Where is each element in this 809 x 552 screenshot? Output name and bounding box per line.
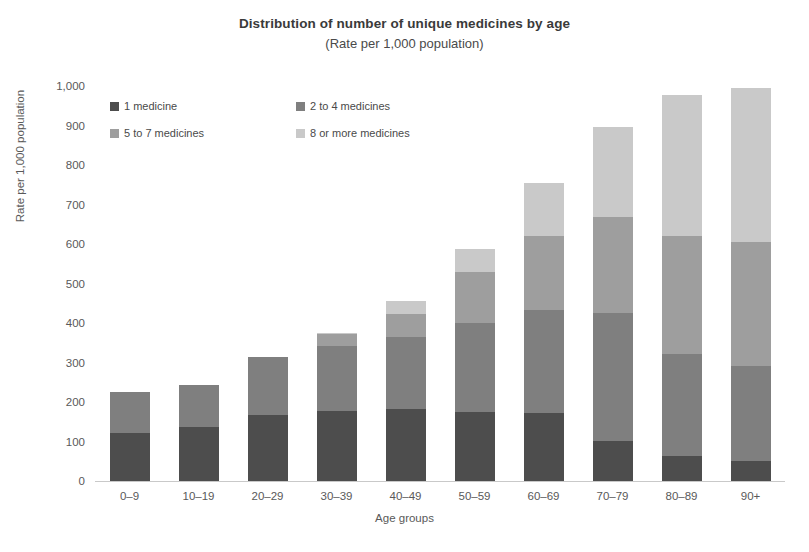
chart-title: Distribution of number of unique medicin… xyxy=(0,16,809,31)
bar-segment[interactable] xyxy=(110,392,150,433)
bar-group[interactable] xyxy=(662,86,702,481)
bar-segment[interactable] xyxy=(662,236,702,354)
bar-segment[interactable] xyxy=(593,313,633,441)
bar-segment[interactable] xyxy=(524,236,564,310)
bar-stack xyxy=(179,385,219,481)
bar-segment[interactable] xyxy=(524,183,564,236)
bar-segment[interactable] xyxy=(662,354,702,456)
bar-segment[interactable] xyxy=(731,88,771,242)
bar-segment[interactable] xyxy=(248,415,288,481)
bar-stack xyxy=(110,392,150,481)
legend-swatch-icon xyxy=(296,102,305,111)
plot-area xyxy=(95,86,785,481)
chart-subtitle: (Rate per 1,000 population) xyxy=(0,36,809,51)
bar-segment[interactable] xyxy=(179,385,219,426)
legend-swatch-icon xyxy=(110,129,119,138)
x-axis-line xyxy=(95,481,785,482)
bar-segment[interactable] xyxy=(593,441,633,481)
bar-segment[interactable] xyxy=(455,249,495,272)
bar-stack xyxy=(455,249,495,481)
y-axis-tick-label: 900 xyxy=(27,120,85,132)
bar-segment[interactable] xyxy=(317,346,357,410)
y-axis-tick-label: 700 xyxy=(27,199,85,211)
bar-segment[interactable] xyxy=(179,427,219,482)
y-axis-tick-label: 200 xyxy=(27,396,85,408)
bar-group[interactable] xyxy=(179,86,219,481)
bar-stack xyxy=(662,95,702,481)
bar-segment[interactable] xyxy=(731,461,771,481)
y-axis-tick-label: 1,000 xyxy=(27,80,85,92)
y-axis-tick-label: 400 xyxy=(27,317,85,329)
bar-stack xyxy=(593,127,633,481)
legend-swatch-icon xyxy=(110,102,119,111)
bar-stack xyxy=(317,333,357,481)
y-axis-tick-label: 600 xyxy=(27,238,85,250)
bar-stack xyxy=(386,301,426,481)
bar-group[interactable] xyxy=(317,86,357,481)
legend-item[interactable]: 2 to 4 medicines xyxy=(296,100,390,112)
bar-group[interactable] xyxy=(386,86,426,481)
bar-segment[interactable] xyxy=(386,301,426,314)
legend-swatch-icon xyxy=(296,129,305,138)
bar-stack xyxy=(524,183,564,481)
bar-group[interactable] xyxy=(455,86,495,481)
x-axis-tick-label: 90+ xyxy=(706,490,796,502)
bar-segment[interactable] xyxy=(524,413,564,481)
bar-segment[interactable] xyxy=(317,334,357,346)
bar-group[interactable] xyxy=(248,86,288,481)
bar-segment[interactable] xyxy=(662,456,702,481)
bar-group[interactable] xyxy=(524,86,564,481)
legend-item[interactable]: 8 or more medicines xyxy=(296,127,410,139)
bar-segment[interactable] xyxy=(524,310,564,413)
bar-segment[interactable] xyxy=(455,412,495,481)
legend-label: 2 to 4 medicines xyxy=(310,100,390,112)
bar-segment[interactable] xyxy=(731,242,771,366)
bar-stack xyxy=(248,357,288,481)
bar-segment[interactable] xyxy=(455,272,495,323)
bar-segment[interactable] xyxy=(593,217,633,313)
y-axis-tick-label: 0 xyxy=(27,475,85,487)
y-axis-tick-label: 500 xyxy=(27,278,85,290)
bar-segment[interactable] xyxy=(248,357,288,414)
bar-segment[interactable] xyxy=(662,95,702,236)
bar-segment[interactable] xyxy=(386,314,426,338)
legend-item[interactable]: 5 to 7 medicines xyxy=(110,127,204,139)
bar-group[interactable] xyxy=(731,86,771,481)
bar-segment[interactable] xyxy=(593,127,633,217)
bar-segment[interactable] xyxy=(455,323,495,412)
bar-group[interactable] xyxy=(110,86,150,481)
y-axis-tick-label: 100 xyxy=(27,436,85,448)
x-axis-title: Age groups xyxy=(0,512,809,524)
legend-label: 1 medicine xyxy=(124,100,177,112)
chart-container: Distribution of number of unique medicin… xyxy=(0,0,809,552)
legend-item[interactable]: 1 medicine xyxy=(110,100,177,112)
bar-segment[interactable] xyxy=(386,337,426,409)
chart-legend: 1 medicine2 to 4 medicines5 to 7 medicin… xyxy=(110,100,460,144)
bar-stack xyxy=(731,88,771,481)
y-axis-tick-label: 300 xyxy=(27,357,85,369)
y-axis-title: Rate per 1,000 population xyxy=(14,0,26,356)
bar-segment[interactable] xyxy=(317,411,357,481)
bar-segment[interactable] xyxy=(110,433,150,481)
legend-label: 8 or more medicines xyxy=(310,127,410,139)
bar-segment[interactable] xyxy=(731,366,771,460)
y-axis-tick-label: 800 xyxy=(27,159,85,171)
bar-segment[interactable] xyxy=(386,409,426,481)
bar-group[interactable] xyxy=(593,86,633,481)
legend-label: 5 to 7 medicines xyxy=(124,127,204,139)
